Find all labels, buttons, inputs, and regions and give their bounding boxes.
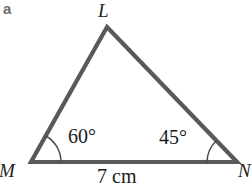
geometry-figure: a L M N 60° 45° 7 cm	[0, 0, 252, 194]
part-label-a: a	[3, 0, 11, 17]
vertex-label-n: N	[238, 161, 251, 180]
angle-label-m: 60°	[68, 126, 96, 146]
angle-arc-M	[46, 136, 61, 162]
angle-label-n: 45°	[159, 127, 187, 147]
triangle-outline	[31, 27, 237, 162]
vertex-label-m: M	[0, 161, 15, 180]
angle-arc-N	[207, 141, 216, 162]
vertex-label-l: L	[98, 1, 109, 20]
side-length-label-mn: 7 cm	[97, 166, 136, 187]
